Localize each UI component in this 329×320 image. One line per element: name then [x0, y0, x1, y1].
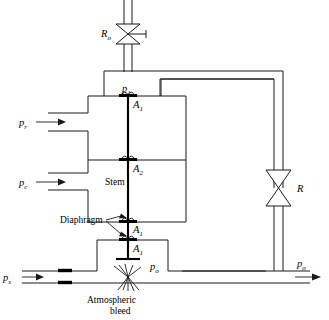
- pipe-restriction-icon: [58, 271, 72, 283]
- upper-inner-routing-pipe: [161, 79, 274, 96]
- diaphragm-leader-lines: [106, 214, 127, 237]
- area-A1-mid-label: A1: [132, 224, 143, 238]
- area-A1-top-label: A1: [132, 99, 143, 113]
- inlet-arrow-ps: [22, 274, 44, 281]
- pneumatic-controller-diagram: Ro: [0, 0, 329, 320]
- area-A1-low-label: A1: [132, 243, 143, 257]
- upper-outer-routing-pipe: [104, 71, 283, 170]
- bleed-label-line2: bleed: [110, 306, 131, 316]
- diaphragm-label: Diaphragm: [60, 215, 103, 225]
- outlet-arrow-po: [295, 274, 321, 281]
- area-A2-label: A2: [132, 163, 143, 177]
- chamber-body-outline: [48, 96, 186, 222]
- inlet-arrow-pr: [36, 119, 66, 126]
- inlet-pc-label: pc: [18, 177, 28, 191]
- diagram-canvas: Ro: [0, 0, 329, 320]
- stem-label: Stem: [105, 177, 125, 187]
- valve-right-label: R: [296, 183, 304, 194]
- valve-right-R[interactable]: [266, 170, 291, 206]
- atmospheric-bleed-icon: [114, 264, 141, 291]
- bleed-label-line1: Atmospheric: [87, 295, 136, 305]
- output-po-right-label: po: [296, 258, 306, 272]
- supply-ps-label: ps: [2, 272, 11, 286]
- inlet-arrow-pc: [36, 179, 66, 186]
- valve-top-label: Ro: [100, 28, 111, 42]
- valve-top-Ro[interactable]: [116, 24, 146, 44]
- output-po-inner-label: po: [149, 261, 159, 275]
- inlet-pr-label: pr: [18, 117, 27, 131]
